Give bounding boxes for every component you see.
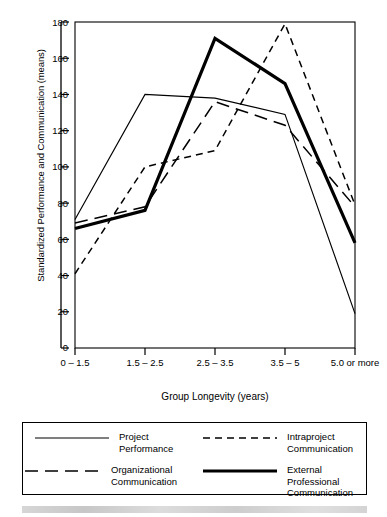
x-axis-ticks bbox=[75, 348, 355, 355]
legend-entry-organizational-communication: Organizational Communication bbox=[25, 464, 177, 487]
legend-entry-intraproject-communication: Intraproject Communication bbox=[201, 431, 353, 454]
legend-swatch-dashed-long bbox=[25, 464, 103, 478]
page-footer-strip bbox=[22, 506, 367, 513]
series-line-3 bbox=[75, 38, 355, 243]
legend-label-external-professional-communication: External Professional Communication bbox=[287, 464, 366, 499]
series-line-2 bbox=[75, 102, 355, 223]
legend-entry-external-professional-communication: External Professional Communication bbox=[201, 464, 366, 499]
legend-label-intraproject-communication: Intraproject Communication bbox=[287, 431, 353, 454]
legend-swatch-solid-thick bbox=[201, 464, 279, 478]
y-axis-ticks bbox=[61, 22, 69, 348]
line-chart-svg bbox=[0, 0, 387, 410]
figure-root: Standardized Performance and Communicati… bbox=[0, 0, 387, 517]
legend-label-project-performance: Project Performance bbox=[119, 431, 173, 454]
legend-label-organizational-communication: Organizational Communication bbox=[111, 464, 177, 487]
legend-swatch-dashed-short bbox=[201, 431, 279, 445]
legend-entry-project-performance: Project Performance bbox=[33, 431, 173, 454]
chart-plot-region: Standardized Performance and Communicati… bbox=[0, 0, 387, 410]
plot-frame bbox=[75, 22, 355, 348]
series-line-0 bbox=[75, 94, 355, 313]
series-layer bbox=[75, 24, 355, 314]
legend: Project Performance Intraproject Communi… bbox=[22, 422, 367, 495]
legend-swatch-solid-thin bbox=[33, 431, 111, 445]
